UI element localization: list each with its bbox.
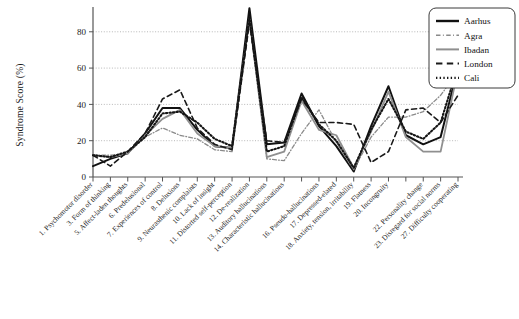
- legend-label-ibadan: Ibadan: [464, 45, 489, 55]
- y-tick-label: 20: [77, 136, 87, 146]
- chart-root: 020406080 1. Psychomotor disorder3. Form…: [0, 0, 519, 319]
- y-tick-label: 80: [77, 27, 87, 37]
- legend-label-london: London: [464, 59, 493, 69]
- legend-label-agra: Agra: [464, 31, 482, 41]
- y-tick-label: 60: [77, 63, 87, 73]
- y-axis-title: Syndrome Score (%): [15, 63, 26, 146]
- line-chart: 020406080 1. Psychomotor disorder3. Form…: [0, 0, 519, 319]
- y-tick-label: 0: [82, 172, 87, 182]
- chart-legend: AarhusAgraIbadanLondonCali: [429, 8, 515, 88]
- y-tick-label: 40: [77, 100, 87, 110]
- legend-label-aarhus: Aarhus: [464, 16, 491, 26]
- legend-label-cali: Cali: [464, 73, 480, 83]
